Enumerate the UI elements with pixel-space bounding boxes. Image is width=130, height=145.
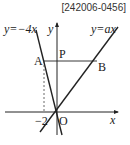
- point-p-label: P: [59, 47, 66, 61]
- point-b-label: B: [98, 60, 106, 74]
- tick-label-neg2: −2: [35, 114, 48, 128]
- y-axis-label: y: [47, 22, 54, 36]
- label-line-ax: y=ax: [90, 22, 116, 36]
- coordinate-diagram: y=−4x y y=ax A P B −2 O x: [0, 0, 130, 145]
- label-line-neg4x: y=−4x: [3, 22, 38, 36]
- origin-label: O: [59, 114, 68, 128]
- point-a-label: A: [34, 54, 43, 68]
- line-y-ax: [40, 27, 118, 132]
- x-axis-label: x: [109, 113, 116, 127]
